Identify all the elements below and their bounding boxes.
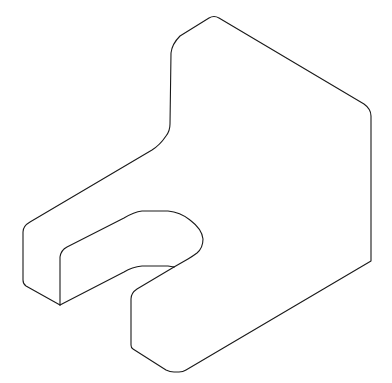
isometric-part-drawing <box>0 0 392 383</box>
slot-bottom-edge <box>60 266 174 305</box>
slot-inner-edge <box>60 211 203 305</box>
drawing-canvas <box>0 0 392 383</box>
outer-contour <box>23 17 371 373</box>
